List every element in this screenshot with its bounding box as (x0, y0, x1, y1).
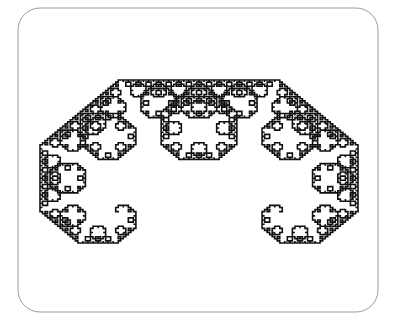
figure-canvas (0, 0, 397, 323)
fractal-figure-svg (0, 0, 397, 323)
levy-c-curve-path (40, 80, 358, 243)
